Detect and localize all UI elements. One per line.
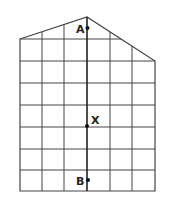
- label-x: X: [91, 114, 100, 127]
- label-a: A: [76, 23, 85, 36]
- point-a: [86, 26, 90, 30]
- point-b: [86, 178, 90, 182]
- point-x: [85, 124, 89, 128]
- label-b: B: [76, 175, 84, 188]
- grid-diagram: A X B: [0, 0, 176, 200]
